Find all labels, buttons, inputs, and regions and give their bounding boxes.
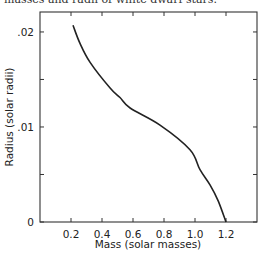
y-axis-label: Radius (solar radii) — [3, 68, 15, 167]
plot-frame — [40, 12, 257, 222]
x-axis-label: Mass (solar masses) — [95, 238, 201, 250]
y-tick-label: 0 — [27, 216, 34, 228]
tick-labels: 0.20.40.60.81.01.20.01.02 — [17, 26, 234, 240]
x-tick-label: 1.2 — [218, 228, 235, 240]
axis-ticks — [40, 12, 257, 222]
y-tick-label: .02 — [17, 26, 34, 38]
mass-radius-chart: 0.20.40.60.81.01.20.01.02 Mass (solar ma… — [0, 0, 264, 257]
x-tick-label: 0.2 — [63, 228, 80, 240]
mass-radius-curve — [73, 25, 226, 222]
y-tick-label: .01 — [17, 121, 34, 133]
